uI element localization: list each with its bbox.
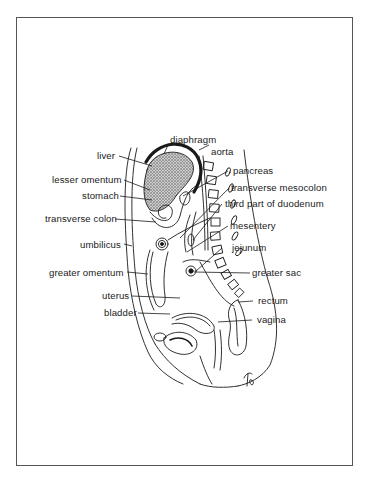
label-transverse-mesocolon: transverse mesocolon: [231, 183, 327, 193]
label-third-part-of-duodenum: third part of duodenum: [225, 199, 324, 209]
label-stomach: stomach: [82, 191, 119, 201]
label-transverse-colon: transverse colon: [45, 214, 117, 224]
label-diaphragm: diaphragm: [170, 135, 216, 145]
label-aorta: aorta: [211, 147, 233, 157]
label-greater-omentum: greater omentum: [49, 268, 124, 278]
label-pancreas: pancreas: [233, 166, 273, 176]
label-liver: liver: [97, 151, 115, 161]
label-uterus: uterus: [102, 291, 129, 301]
label-mesentery: mesentery: [230, 221, 276, 231]
label-lesser-omentum: lesser omentum: [52, 175, 122, 185]
label-greater-sac: greater sac: [252, 268, 301, 278]
label-rectum: rectum: [258, 296, 288, 306]
label-bladder: bladder: [104, 308, 137, 318]
label-umbilicus: umbilicus: [80, 240, 121, 250]
label-jejunum: jejunum: [232, 243, 266, 253]
sagittal-section-drawing: [0, 0, 371, 482]
label-vagina: vagina: [257, 315, 286, 325]
